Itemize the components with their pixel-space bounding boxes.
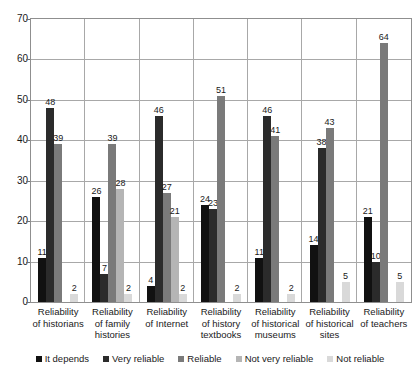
bar-slot: 7 <box>100 19 108 302</box>
bar[interactable] <box>92 197 100 302</box>
bar[interactable] <box>287 294 295 302</box>
bar-slot: 11 <box>38 19 46 302</box>
bar-slot: 5 <box>396 19 404 302</box>
bar[interactable] <box>54 144 62 302</box>
bar[interactable] <box>310 245 318 302</box>
bar-slot: 10 <box>372 19 380 302</box>
bar-value-label: 5 <box>335 272 357 281</box>
legend-item[interactable]: Not very reliable <box>236 354 314 364</box>
bar-slot: 38 <box>318 19 326 302</box>
category-label-line: of historical <box>249 318 301 330</box>
legend-item[interactable]: Very reliable <box>103 354 164 364</box>
bar-value-label: 5 <box>389 272 411 281</box>
bar-group-bars: 1438435 <box>302 19 356 302</box>
x-axis-category-label: Reliabilityof Internet <box>140 306 194 350</box>
legend-item[interactable]: It depends <box>36 354 89 364</box>
x-axis-category-labels: Reliabilityof historiansReliabilityof fa… <box>31 306 411 350</box>
bar-groups: 1148392267392824462721224235121146412143… <box>31 19 411 302</box>
bar[interactable] <box>372 262 380 302</box>
bar[interactable] <box>108 144 116 302</box>
legend-label: Not reliable <box>336 354 384 364</box>
category-label-line: of family <box>86 318 138 330</box>
category-label-line: Reliability <box>141 306 193 318</box>
bar[interactable] <box>209 209 217 302</box>
bar[interactable] <box>38 258 46 302</box>
bar-slot <box>62 19 70 302</box>
category-label-line: of historians <box>32 318 84 330</box>
bar[interactable] <box>100 274 108 302</box>
bar[interactable] <box>271 136 279 302</box>
bar[interactable] <box>255 258 263 302</box>
bar-slot: 39 <box>54 19 62 302</box>
chart-legend: It dependsVery reliableReliableNot very … <box>0 354 420 364</box>
legend-label: Reliable <box>187 354 221 364</box>
legend-swatch-icon <box>103 356 109 362</box>
bar[interactable] <box>263 116 271 302</box>
bar-slot: 48 <box>46 19 54 302</box>
legend-item[interactable]: Reliable <box>178 354 221 364</box>
bar-value-label: 2 <box>117 284 139 293</box>
bar-value-label: 2 <box>172 284 194 293</box>
bar[interactable] <box>233 294 241 302</box>
category-label-line: Reliability <box>86 306 138 318</box>
bar[interactable] <box>70 294 78 302</box>
bar[interactable] <box>396 282 404 302</box>
x-axis-category-label: Reliabilityof familyhistories <box>85 306 139 350</box>
category-label-line: histories <box>86 329 138 341</box>
bar-group: 2423512 <box>194 19 248 302</box>
bar-group-bars: 26739282 <box>85 19 139 302</box>
bar-group: 1148392 <box>31 19 85 302</box>
bar-slot: 64 <box>380 19 388 302</box>
legend-item[interactable]: Not reliable <box>327 354 384 364</box>
bar[interactable] <box>201 205 209 302</box>
bar[interactable] <box>380 43 388 302</box>
bar-slot: 28 <box>116 19 124 302</box>
bar[interactable] <box>318 148 326 302</box>
bar-slot: 4 <box>147 19 155 302</box>
legend-label: Very reliable <box>112 354 164 364</box>
y-axis-tick-label: 60 <box>2 54 28 64</box>
bar-group-bars: 44627212 <box>140 19 194 302</box>
bar-group-bars: 2423512 <box>194 19 248 302</box>
category-label-line: Reliability <box>303 306 355 318</box>
category-label-line: sites <box>303 329 355 341</box>
bar-group: 1146412 <box>248 19 302 302</box>
bar[interactable] <box>155 116 163 302</box>
bar-slot <box>388 19 396 302</box>
bar-slot: 46 <box>263 19 271 302</box>
bar-value-label: 2 <box>226 284 248 293</box>
bar-slot: 11 <box>255 19 263 302</box>
bar[interactable] <box>217 96 225 302</box>
bar[interactable] <box>124 294 132 302</box>
legend-swatch-icon <box>36 356 42 362</box>
bar-slot <box>225 19 233 302</box>
y-axis-tick-label: 10 <box>2 257 28 267</box>
bar-group-bars: 1146412 <box>248 19 302 302</box>
legend-swatch-icon <box>327 356 333 362</box>
bar[interactable] <box>342 282 350 302</box>
category-label-line: museums <box>249 329 301 341</box>
bar-slot: 39 <box>108 19 116 302</box>
bar-slot: 41 <box>271 19 279 302</box>
category-label-line: Reliability <box>195 306 247 318</box>
y-axis-tick-label: 40 <box>2 135 28 145</box>
bar[interactable] <box>326 128 334 302</box>
category-label-line: of Internet <box>141 318 193 330</box>
bar[interactable] <box>179 294 187 302</box>
bar-group: 2110645 <box>357 19 411 302</box>
x-axis-category-label: Reliabilityof historytextbooks <box>194 306 248 350</box>
category-label-line: Reliability <box>32 306 84 318</box>
bar-slot <box>334 19 342 302</box>
bar-slot: 24 <box>201 19 209 302</box>
bar-slot: 5 <box>342 19 350 302</box>
category-label-line: of teachers <box>358 318 410 330</box>
bar-slot <box>279 19 287 302</box>
bar[interactable] <box>147 286 155 302</box>
y-axis-tick-label: 20 <box>2 216 28 226</box>
bar-group-bars: 2110645 <box>357 19 411 302</box>
bar-slot: 2 <box>233 19 241 302</box>
y-axis-tick-label: 50 <box>2 95 28 105</box>
bar-value-label: 2 <box>63 284 85 293</box>
bar-slot: 2 <box>70 19 78 302</box>
bar-slot: 2 <box>287 19 295 302</box>
